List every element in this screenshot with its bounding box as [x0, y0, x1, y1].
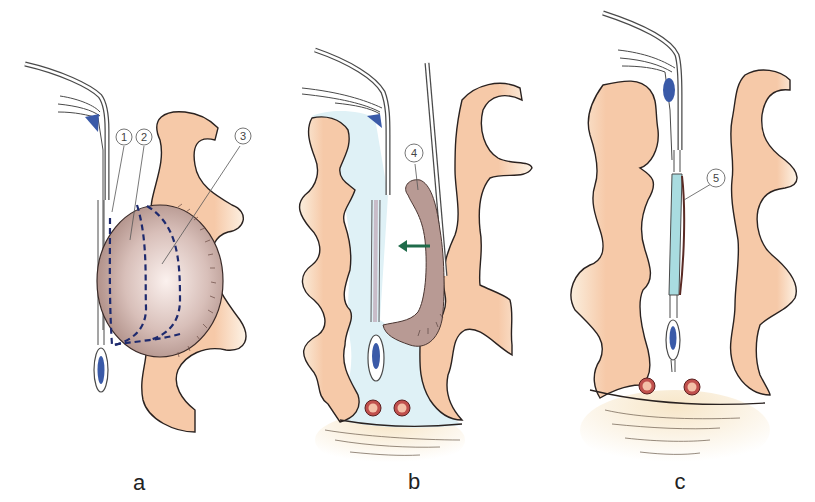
- svg-text:4: 4: [411, 147, 417, 159]
- panel-label-a: a: [124, 470, 154, 496]
- tissue-c-left: [571, 81, 658, 398]
- panel-b: 4: [300, 50, 532, 468]
- svg-text:1: 1: [121, 131, 127, 143]
- svg-text:5: 5: [713, 172, 719, 184]
- tissue-c-right: [731, 70, 797, 395]
- svg-text:2: 2: [141, 131, 147, 143]
- panel-label-c: c: [665, 469, 695, 495]
- callout-3: 3: [235, 128, 251, 144]
- mass-a: [97, 205, 223, 357]
- panel-c: 5: [571, 13, 797, 470]
- panel-a: 1 2 3: [25, 64, 251, 432]
- graft-c: [669, 174, 682, 295]
- callout-2: 2: [136, 129, 152, 145]
- svg-text:3: 3: [240, 130, 246, 142]
- blue-structure-c-top: [663, 78, 675, 102]
- mass-b: [383, 180, 444, 347]
- panel-label-b: b: [399, 469, 429, 495]
- medical-diagram: 1 2 3: [0, 0, 815, 502]
- vessel-tube-a: [25, 64, 107, 200]
- callout-1: 1: [116, 129, 132, 145]
- callout-5: 5: [707, 169, 725, 187]
- blue-wedge-a: [85, 114, 99, 132]
- callout-4: 4: [405, 144, 423, 162]
